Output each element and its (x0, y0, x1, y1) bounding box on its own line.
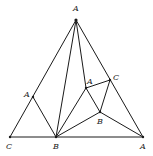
edges (10, 20, 143, 137)
vertex-label-left: A (23, 90, 30, 99)
vertex-label-inner-c: C (113, 73, 119, 82)
vertex-inner-a (85, 87, 87, 89)
edge-inner-c-inner-b (100, 80, 110, 112)
vertex-inner-b (99, 111, 101, 113)
edge-inner-b-bottom-mid (56, 112, 100, 137)
vertex-label-inner-b: B (96, 117, 103, 126)
vertex-labels: ACBAAACB (6, 4, 146, 151)
vertices (9, 18, 144, 138)
vertex-bottom-mid (55, 136, 57, 138)
triangle-graph-diagram: ACBAAACB (0, 0, 153, 156)
vertex-label-bottom-mid: B (52, 142, 59, 151)
vertex-top (74, 18, 77, 21)
edge-top-inner-a (76, 20, 86, 88)
vertex-label-bottom-left: C (6, 142, 12, 151)
vertex-label-bottom-right: A (139, 142, 146, 151)
vertex-left (32, 96, 34, 98)
vertex-label-top: A (72, 4, 79, 13)
vertex-inner-c (109, 79, 111, 81)
edge-left-bottom-mid (33, 97, 56, 137)
vertex-bottom-left (9, 136, 11, 138)
vertex-label-inner-a: A (86, 77, 93, 86)
edge-inner-b-bottom-right (100, 112, 143, 137)
edge-inner-a-inner-b (86, 88, 100, 112)
vertex-bottom-right (142, 136, 144, 138)
